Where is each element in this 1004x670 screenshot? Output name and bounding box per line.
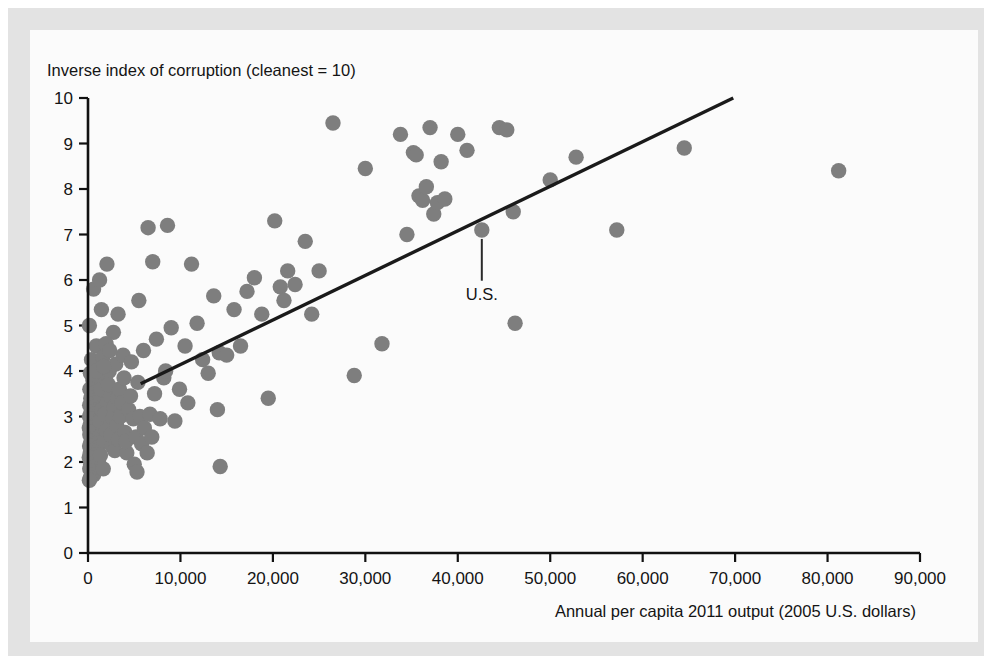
x-tick-label: 50,000 [524, 569, 576, 588]
annotations-group: U.S. [466, 239, 498, 303]
data-point [102, 343, 117, 358]
data-point [152, 411, 167, 426]
data-point [276, 293, 291, 308]
data-point [568, 149, 583, 164]
y-tick-label: 6 [64, 271, 73, 290]
data-point [189, 316, 204, 331]
data-point [226, 302, 241, 317]
x-tick-label: 80,000 [802, 569, 854, 588]
x-tick-label: 40,000 [432, 569, 484, 588]
data-point [347, 368, 362, 383]
data-point [96, 359, 111, 374]
data-point [94, 302, 109, 317]
data-point [110, 306, 125, 321]
data-point [261, 391, 276, 406]
data-point [184, 256, 199, 271]
data-point [499, 122, 514, 137]
y-tick-label: 1 [64, 499, 73, 518]
data-point [408, 147, 423, 162]
data-point [206, 288, 221, 303]
data-point [298, 234, 313, 249]
data-point [233, 338, 248, 353]
data-point [82, 318, 97, 333]
y-tick-label: 9 [64, 135, 73, 154]
data-point [254, 306, 269, 321]
data-point [422, 120, 437, 135]
data-point [96, 461, 111, 476]
data-point [831, 163, 846, 178]
y-tick-label: 5 [64, 317, 73, 336]
data-point [167, 413, 182, 428]
data-point [304, 306, 319, 321]
data-point [200, 366, 215, 381]
data-point [92, 272, 107, 287]
data-point [140, 220, 155, 235]
data-point [139, 445, 154, 460]
data-point [415, 193, 430, 208]
data-point [180, 395, 195, 410]
data-point [149, 331, 164, 346]
data-point [280, 263, 295, 278]
data-point [273, 279, 288, 294]
data-point [123, 388, 138, 403]
regression-trend-line [141, 98, 734, 384]
data-point [374, 336, 389, 351]
data-point [147, 386, 162, 401]
x-tick-label: 10,000 [154, 569, 206, 588]
data-point [145, 254, 160, 269]
data-point [82, 473, 97, 488]
data-point [219, 347, 234, 362]
data-point [419, 179, 434, 194]
x-tick-label: 20,000 [247, 569, 299, 588]
y-tick-label: 7 [64, 226, 73, 245]
page-frame: Inverse index of corruption (cleanest = … [0, 0, 1004, 670]
data-point [609, 222, 624, 237]
data-point [116, 370, 131, 385]
trend-line-group [141, 98, 734, 384]
annotation-label-us: U.S. [466, 285, 498, 303]
data-point [247, 270, 262, 285]
data-point [459, 143, 474, 158]
x-tick-label: 70,000 [709, 569, 761, 588]
data-point [177, 338, 192, 353]
data-point [131, 293, 146, 308]
data-point [267, 213, 282, 228]
plot-axis-frame [88, 98, 920, 553]
x-tick-label: 60,000 [617, 569, 669, 588]
data-point [450, 127, 465, 142]
y-tick-label: 8 [64, 180, 73, 199]
y-axis-title: Inverse index of corruption (cleanest = … [47, 61, 356, 79]
scatter-chart-figure: Inverse index of corruption (cleanest = … [0, 0, 1004, 670]
y-tick-label: 0 [64, 544, 73, 563]
chart-svg: Inverse index of corruption (cleanest = … [0, 0, 1004, 670]
data-point [136, 343, 151, 358]
data-point [311, 263, 326, 278]
data-point [129, 464, 144, 479]
data-point [172, 382, 187, 397]
y-tick-label: 2 [64, 453, 73, 472]
x-axis-title: Annual per capita 2011 output (2005 U.S.… [555, 602, 916, 620]
data-point [210, 402, 225, 417]
data-point [287, 277, 302, 292]
data-point [164, 320, 179, 335]
y-axis-title-group: Inverse index of corruption (cleanest = … [47, 61, 356, 79]
data-point [433, 154, 448, 169]
data-point [393, 127, 408, 142]
data-point [358, 161, 373, 176]
data-point [160, 218, 175, 233]
data-point [99, 256, 114, 271]
data-point [399, 227, 414, 242]
data-point [474, 222, 489, 237]
x-tick-label: 30,000 [339, 569, 391, 588]
data-point [437, 191, 452, 206]
data-point [124, 354, 139, 369]
data-point [507, 316, 522, 331]
data-point [239, 284, 254, 299]
data-point [212, 459, 227, 474]
axis-lines-group [88, 98, 920, 553]
x-axis-title-group: Annual per capita 2011 output (2005 U.S.… [555, 602, 916, 620]
y-tick-label: 3 [64, 408, 73, 427]
y-tick-label: 10 [54, 89, 73, 108]
data-points-group [82, 115, 847, 488]
data-point [325, 115, 340, 130]
